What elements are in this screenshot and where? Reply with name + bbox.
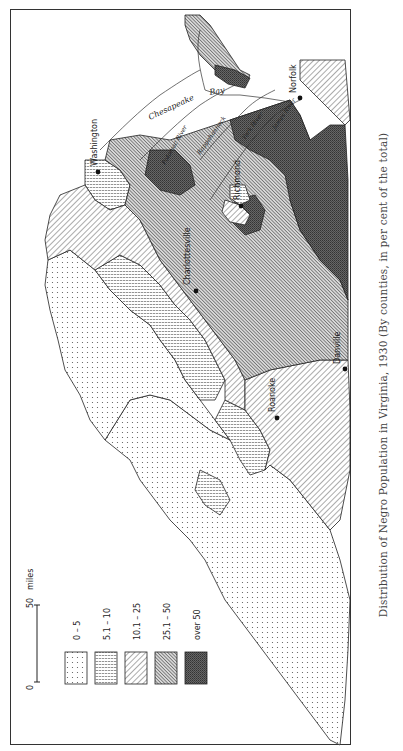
- city-label-charlottesville: Charlottesville: [183, 227, 192, 285]
- water-label-chesapeake: Chesapeake: [147, 93, 196, 122]
- city-label-roanoke: Roanoke: [268, 378, 277, 412]
- legend-label-4: over 50: [193, 609, 202, 640]
- legend-label-0: 0 – 5: [73, 621, 82, 640]
- region-diag-east: [300, 60, 350, 125]
- legend: 0 – 5 5.1 – 10 10.1 – 25 25.1 – 50 over …: [65, 603, 207, 684]
- washington-marker: [96, 170, 101, 175]
- city-label-danville: Danville: [333, 331, 342, 364]
- norfolk-marker: [298, 96, 303, 101]
- legend-swatch-dots: [65, 652, 87, 684]
- scale-start: 0: [26, 685, 35, 690]
- richmond-marker: [239, 204, 244, 209]
- city-label-washington: Washington: [90, 119, 99, 166]
- virginia-map: 0 – 5 5.1 – 10 10.1 – 25 25.1 – 50 over …: [0, 0, 403, 751]
- scale-end: 50: [26, 598, 35, 608]
- legend-swatch-diag: [125, 652, 147, 684]
- legend-swatch-dark: [185, 652, 207, 684]
- map-caption: Distribution of Negro Population in Virg…: [377, 133, 389, 617]
- legend-label-3: 25.1 – 50: [163, 603, 172, 640]
- scale-bar: 0 50 miles: [26, 569, 40, 690]
- roanoke-marker: [275, 416, 280, 421]
- legend-swatch-hlines: [95, 652, 117, 684]
- city-label-richmond: Richmond: [233, 160, 242, 200]
- charlottesville-marker: [194, 289, 199, 294]
- water-label-bay: Bay: [208, 85, 226, 97]
- legend-swatch-ddiag: [155, 652, 177, 684]
- legend-label-2: 10.1 – 25: [133, 603, 142, 640]
- scale-unit: miles: [26, 569, 35, 590]
- legend-label-1: 5.1 – 10: [103, 608, 112, 640]
- city-label-norfolk: Norfolk: [289, 64, 298, 93]
- danville-marker: [343, 367, 348, 372]
